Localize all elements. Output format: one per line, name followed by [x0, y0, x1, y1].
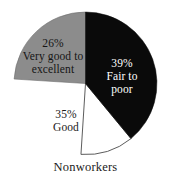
pie-slice-very-good-to-excellent	[14, 12, 85, 84]
pie-chart-graphic	[0, 0, 171, 185]
figure-caption: Nonworkers	[0, 160, 171, 175]
pie-chart-figure: 39% Fair to poor 35% Good 26% Very good …	[0, 0, 171, 185]
